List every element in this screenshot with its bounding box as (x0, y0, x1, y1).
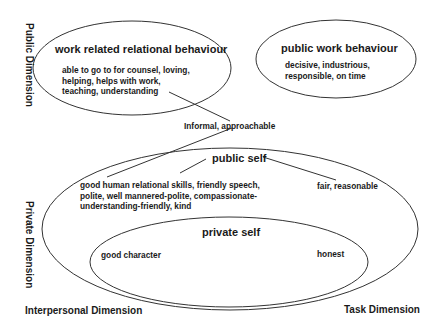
public-work-description: decisive, industrious, responsible, on t… (285, 60, 370, 81)
private-self-right-label: honest (317, 249, 344, 260)
work-related-line: teaching, understanding (62, 86, 190, 97)
public-work-line: responsible, on time (285, 71, 370, 82)
axis-label-private-dimension: Private Dimension (24, 201, 35, 288)
public-work-title: public work behaviour (281, 42, 398, 54)
private-self-title: private self (202, 226, 260, 238)
axis-label-interpersonal-dimension: Interpersonal Dimension (25, 305, 142, 316)
work-related-description: able to go to for counsel, loving, helpi… (62, 65, 190, 97)
work-related-line: able to go to for counsel, loving, (62, 65, 190, 76)
public-self-right-label: fair, reasonable (317, 181, 378, 192)
public-self-line: good human relational skills, friendly s… (80, 180, 260, 191)
work-related-title: work related relational behaviour (55, 43, 227, 55)
private-self-left-label: good character (101, 250, 161, 261)
public-self-line: understanding-friendly, kind (80, 201, 260, 212)
public-self-left-pointer (180, 159, 206, 173)
public-self-line: polite, well mannered-polite, compassion… (80, 191, 260, 202)
public-work-line: decisive, industrious, (285, 60, 370, 71)
work-related-line: helping, helps with work, (62, 76, 190, 87)
public-self-right-pointer (263, 157, 336, 180)
public-self-title: public self (212, 152, 266, 164)
public-work-ellipse (256, 20, 416, 98)
public-self-description: good human relational skills, friendly s… (80, 180, 260, 212)
axis-label-public-dimension: Public Dimension (24, 23, 35, 107)
axis-label-task-dimension: Task Dimension (344, 304, 420, 315)
connector-label: Informal, approachable (184, 121, 275, 132)
